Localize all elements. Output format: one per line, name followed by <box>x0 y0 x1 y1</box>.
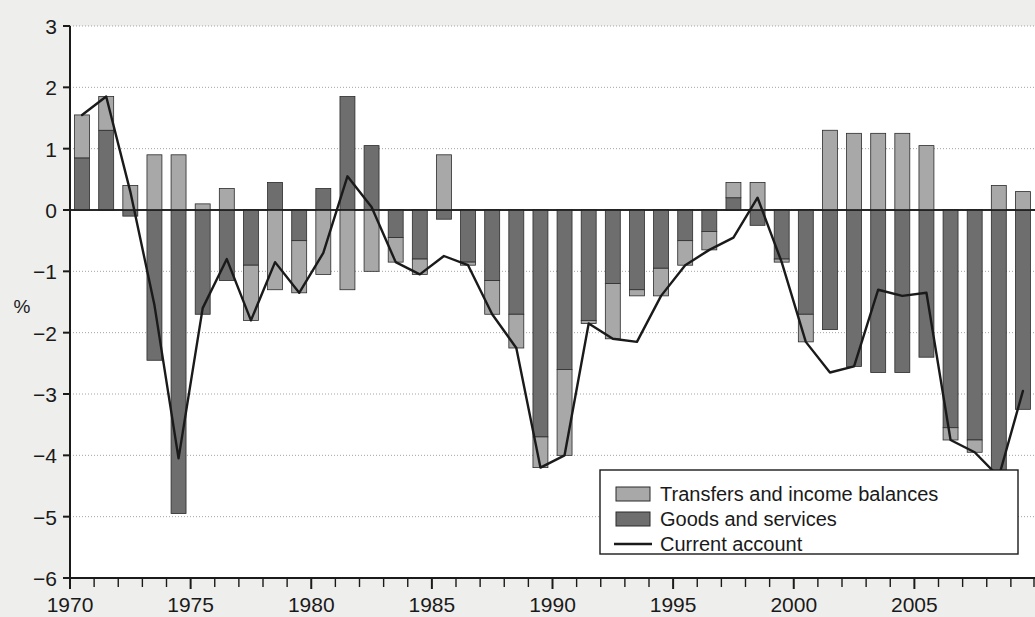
bar-goods-services-2000 <box>798 210 813 314</box>
chart-legend: Transfers and income balancesGoods and s… <box>600 470 1018 555</box>
y-tick-label--2: −2 <box>33 322 57 345</box>
bar-goods-services-2006 <box>943 210 958 428</box>
bar-transfers-income-2001 <box>822 130 837 210</box>
y-tick-label-2: 2 <box>45 76 57 99</box>
bar-transfers-income-1997 <box>726 182 741 197</box>
bar-goods-services-1990 <box>557 210 572 369</box>
bar-goods-services-1995 <box>678 210 693 241</box>
bar-transfers-income-2005 <box>919 146 934 210</box>
current-account-stacked-bar-chart: 3210−1−2−3−4−5−6 19701975198019851990199… <box>0 0 1035 617</box>
y-tick-label--6: −6 <box>33 567 57 590</box>
legend-label-0: Transfers and income balances <box>660 483 938 505</box>
bar-transfers-income-2008 <box>991 185 1006 210</box>
x-tick-label-1985: 1985 <box>409 593 456 616</box>
bar-transfers-income-1973 <box>147 155 162 210</box>
x-tick-label-1990: 1990 <box>529 593 576 616</box>
bar-transfers-income-2009 <box>1015 192 1030 210</box>
bar-transfers-income-1980 <box>316 210 331 274</box>
bar-goods-services-2008 <box>991 210 1006 474</box>
bar-goods-services-1997 <box>726 198 741 210</box>
bar-goods-services-1980 <box>316 189 331 210</box>
bar-transfers-income-1990 <box>557 369 572 455</box>
bar-goods-services-1999 <box>774 210 789 259</box>
bar-transfers-income-2004 <box>895 133 910 210</box>
legend-label-2: Current account <box>660 533 803 555</box>
bar-goods-services-1988 <box>509 210 524 314</box>
x-tick-label-1995: 1995 <box>650 593 697 616</box>
y-tick-label--3: −3 <box>33 383 57 406</box>
x-tick-label-1975: 1975 <box>167 593 214 616</box>
y-tick-label-1: 1 <box>45 138 57 161</box>
bar-transfers-income-1981 <box>340 210 355 290</box>
y-tick-label--1: −1 <box>33 260 57 283</box>
bar-goods-services-2005 <box>919 210 934 357</box>
x-tick-label-2005: 2005 <box>891 593 938 616</box>
bar-transfers-income-1993 <box>629 290 644 296</box>
bar-transfers-income-1977 <box>243 265 258 320</box>
legend-swatch-0 <box>616 487 650 501</box>
bar-transfers-income-1987 <box>485 281 500 315</box>
bar-goods-services-1987 <box>485 210 500 281</box>
bar-goods-services-1970 <box>75 158 90 210</box>
y-tick-label-0: 0 <box>45 199 57 222</box>
y-axis-title: % <box>14 296 31 317</box>
bar-goods-services-1985 <box>436 210 451 219</box>
bar-goods-services-1984 <box>412 210 427 259</box>
bar-transfers-income-1970 <box>75 115 90 158</box>
bar-goods-services-1979 <box>292 210 307 241</box>
x-tick-label-1980: 1980 <box>288 593 335 616</box>
bar-goods-services-2002 <box>847 210 862 366</box>
chart-container: 3210−1−2−3−4−5−6 19701975198019851990199… <box>0 0 1035 617</box>
bar-transfers-income-1992 <box>605 284 620 339</box>
bar-goods-services-1978 <box>268 182 283 210</box>
x-tick-label-2000: 2000 <box>770 593 817 616</box>
bar-goods-services-1983 <box>388 210 403 238</box>
bar-transfers-income-1994 <box>654 268 669 296</box>
bar-goods-services-1971 <box>99 130 114 210</box>
bar-goods-services-2007 <box>967 210 982 440</box>
bar-goods-services-2004 <box>895 210 910 373</box>
bar-goods-services-1977 <box>243 210 258 265</box>
y-tick-label--5: −5 <box>33 506 57 529</box>
bar-goods-services-1989 <box>533 210 548 437</box>
bar-transfers-income-2002 <box>847 133 862 210</box>
bar-transfers-income-1974 <box>171 155 186 210</box>
bar-goods-services-2001 <box>822 210 837 330</box>
bar-goods-services-1974 <box>171 210 186 514</box>
legend-swatch-1 <box>616 512 650 526</box>
bar-goods-services-1994 <box>654 210 669 268</box>
bar-goods-services-1986 <box>461 210 476 262</box>
bar-transfers-income-1988 <box>509 314 524 348</box>
y-axis-title-text: % <box>14 296 31 317</box>
bar-goods-services-2009 <box>1015 210 1030 409</box>
bar-transfers-income-2003 <box>871 133 886 210</box>
y-tick-label-3: 3 <box>45 15 57 38</box>
bar-goods-services-1993 <box>629 210 644 290</box>
bar-goods-services-1996 <box>702 210 717 231</box>
bar-goods-services-1991 <box>581 210 596 320</box>
bar-transfers-income-1975 <box>195 204 210 210</box>
legend-label-1: Goods and services <box>660 508 837 530</box>
bar-goods-services-1992 <box>605 210 620 284</box>
y-tick-label--4: −4 <box>33 444 57 467</box>
bar-transfers-income-1985 <box>436 155 451 210</box>
bar-transfers-income-1976 <box>219 189 234 210</box>
x-tick-label-1970: 1970 <box>47 593 94 616</box>
